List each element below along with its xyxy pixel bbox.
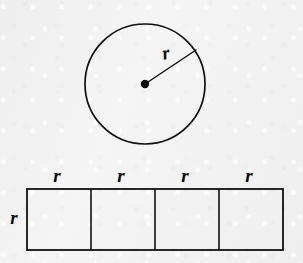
circle-group: r — [85, 24, 205, 144]
strip-top-label-r-4: r — [245, 165, 253, 186]
circle-center-dot — [141, 80, 149, 88]
strip-top-label-r-2: r — [117, 165, 125, 186]
figure-root: r r r r r r — [0, 0, 303, 263]
geometry-figure: r r r r r r — [0, 0, 303, 263]
strip-side-label-r: r — [10, 207, 18, 228]
strip-top-label-r-1: r — [53, 165, 61, 186]
rectangle-strip-group: r r r r r — [10, 165, 283, 250]
strip-top-label-r-3: r — [181, 165, 189, 186]
radius-segment — [145, 50, 196, 84]
radius-label-r: r — [160, 41, 172, 63]
